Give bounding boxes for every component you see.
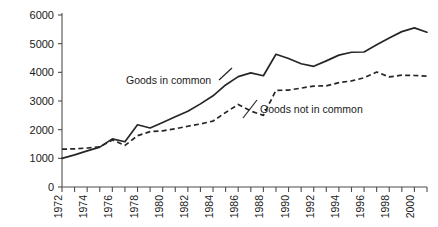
x-tick-label: 1996 — [354, 195, 366, 219]
x-tick-label: 1986 — [228, 195, 240, 219]
y-tick-label: 1000 — [30, 152, 54, 164]
x-tick-label: 1984 — [203, 195, 215, 219]
series-goods-in-common-line — [62, 28, 427, 158]
y-tick-label: 3000 — [30, 95, 54, 107]
series-label-goods-not-in-common: Goods not in common — [260, 103, 363, 115]
x-tick-label: 1990 — [279, 195, 291, 219]
x-tick-label: 1988 — [253, 195, 265, 219]
x-tick-label: 1974 — [77, 195, 89, 219]
x-tick-label: 1978 — [128, 195, 140, 219]
x-tick-label: 1982 — [178, 195, 190, 219]
y-tick-label: 2000 — [30, 124, 54, 136]
series-label-goods-in-common: Goods in common — [126, 74, 211, 86]
y-axis: 0100020003000400050006000 — [30, 9, 62, 193]
y-tick-label: 0 — [48, 181, 54, 193]
x-tick-label: 1980 — [153, 195, 165, 219]
y-tick-label: 4000 — [30, 66, 54, 78]
y-tick-label-group: 0100020003000400050006000 — [30, 9, 54, 193]
leader-line-goods-in-common — [219, 68, 232, 80]
line-chart: 0100020003000400050006000 19721974197619… — [0, 0, 438, 227]
x-tick-label: 1998 — [379, 195, 391, 219]
x-tick-label-group: 1972197419761978198019821984198619881990… — [52, 195, 416, 219]
x-tick-label: 1972 — [52, 195, 64, 219]
x-tick-group — [62, 187, 427, 192]
y-tick-label: 6000 — [30, 9, 54, 21]
data-series-group — [62, 28, 427, 158]
x-axis: 1972197419761978198019821984198619881990… — [52, 187, 427, 218]
series-goods-not-in-common-line — [62, 72, 427, 149]
x-tick-label: 2000 — [404, 195, 416, 219]
x-tick-label: 1976 — [102, 195, 114, 219]
y-tick-group — [58, 15, 62, 187]
y-tick-label: 5000 — [30, 38, 54, 50]
x-tick-label: 1992 — [304, 195, 316, 219]
x-tick-label: 1994 — [329, 195, 341, 219]
chart-svg: 0100020003000400050006000 19721974197619… — [0, 0, 438, 227]
